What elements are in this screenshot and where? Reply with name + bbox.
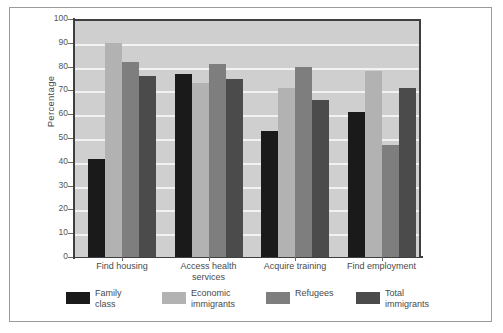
- x-axis-tick-mark: [209, 257, 210, 261]
- bar[interactable]: [175, 74, 192, 257]
- y-axis-tick-label: 0: [42, 252, 68, 261]
- y-axis-tick-mark: [68, 257, 73, 258]
- legend-label: Totalimmigrants: [385, 288, 475, 309]
- bar[interactable]: [88, 159, 105, 257]
- chart-legend: FamilyclassEconomicimmigrantsRefugeesTot…: [66, 288, 446, 318]
- y-axis-tick-mark: [68, 162, 73, 163]
- bar[interactable]: [139, 76, 156, 257]
- y-axis-tick-label: 20: [42, 204, 68, 213]
- chart-figure: 0102030405060708090100 Percentage Family…: [0, 0, 503, 333]
- bar[interactable]: [122, 62, 139, 257]
- bar[interactable]: [105, 43, 122, 257]
- bar-group: [88, 21, 156, 257]
- bar[interactable]: [226, 79, 243, 258]
- bar[interactable]: [209, 64, 226, 257]
- y-axis-tick-mark: [68, 90, 73, 91]
- y-axis-tick-mark: [68, 138, 73, 139]
- bar[interactable]: [399, 88, 416, 257]
- x-axis-tick-mark: [295, 257, 296, 261]
- legend-swatch: [162, 292, 186, 304]
- plot-wrapper: [75, 19, 421, 257]
- legend-swatch: [356, 292, 380, 304]
- y-axis-tick-label: 30: [42, 181, 68, 190]
- bar-group: [175, 21, 243, 257]
- bar[interactable]: [312, 100, 329, 257]
- bar[interactable]: [382, 145, 399, 257]
- x-axis-tick-label: Find employment: [322, 261, 442, 272]
- y-axis-tick-mark: [68, 186, 73, 187]
- y-axis-tick-mark: [68, 114, 73, 115]
- y-axis-tick-label: 10: [42, 228, 68, 237]
- bar[interactable]: [278, 88, 295, 257]
- y-axis-tick-mark: [68, 43, 73, 44]
- bar[interactable]: [295, 67, 312, 257]
- y-axis-tick-mark: [68, 233, 73, 234]
- y-axis-tick-mark: [68, 67, 73, 68]
- bar[interactable]: [261, 131, 278, 257]
- bar[interactable]: [192, 83, 209, 257]
- legend-swatch: [266, 292, 290, 304]
- legend-swatch: [66, 292, 90, 304]
- bar[interactable]: [365, 71, 382, 257]
- bar-group: [348, 21, 416, 257]
- y-axis-title: Percentage: [45, 32, 56, 172]
- x-axis-tick-mark: [122, 257, 123, 261]
- y-axis-tick-label: 100: [42, 14, 68, 23]
- y-axis-tick-mark: [68, 19, 73, 20]
- bar[interactable]: [348, 112, 365, 257]
- bar-group: [261, 21, 329, 257]
- x-axis-tick-mark: [382, 257, 383, 261]
- y-axis-tick-mark: [68, 209, 73, 210]
- plot-area: [75, 19, 421, 257]
